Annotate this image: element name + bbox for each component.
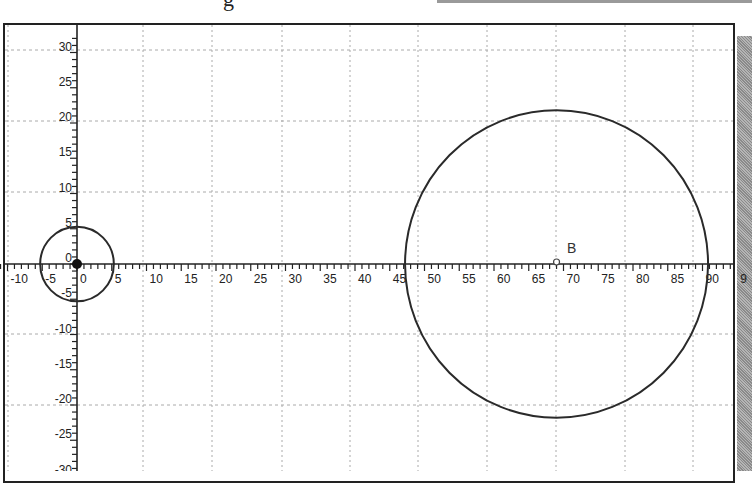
y-tick-label: -20	[55, 392, 73, 406]
y-tick-label: -25	[55, 427, 73, 441]
x-tick-label: 40	[358, 272, 372, 286]
x-tick-label: 20	[219, 272, 233, 286]
x-tick-label: 85	[671, 272, 685, 286]
x-tick-label: 10	[150, 272, 164, 286]
point-b-label: B	[567, 240, 576, 256]
x-tick-label: 35	[323, 272, 337, 286]
grid-lines	[5, 25, 733, 471]
y-tick-label: 0	[65, 251, 72, 265]
x-tick-label: 5	[115, 272, 122, 286]
x-tick-label: 50	[428, 272, 442, 286]
x-tick-label: 65	[532, 272, 546, 286]
y-tick-label: -15	[55, 357, 73, 371]
y-tick-label: 10	[59, 181, 73, 195]
y-tick-label: 30	[59, 40, 73, 54]
x-tick-label: 60	[497, 272, 511, 286]
x-tick-label: 0	[80, 272, 87, 286]
point-b	[554, 259, 560, 265]
y-tick-label: 15	[59, 145, 73, 159]
x-tick-label: 25	[254, 272, 268, 286]
x-tick-label: 30	[289, 272, 303, 286]
x-tick-label: 70	[567, 272, 581, 286]
x-tick-label: 75	[601, 272, 615, 286]
origin-point	[72, 259, 82, 269]
y-axis-tick-labels: 302520151050-5-10-15-20-25-30	[55, 40, 73, 472]
y-tick-label: -10	[55, 322, 73, 336]
y-tick-label: -30	[55, 463, 73, 472]
y-tick-label: 20	[59, 110, 73, 124]
x-tick-label: 9	[740, 272, 747, 286]
x-tick-label: -10	[11, 272, 29, 286]
x-axis-tick-labels: -10-505101520253035404550556065707580859…	[11, 272, 748, 286]
x-tick-label: 80	[636, 272, 650, 286]
x-tick-label: 15	[184, 272, 198, 286]
x-tick-label: 55	[462, 272, 476, 286]
y-tick-label: 25	[59, 75, 73, 89]
